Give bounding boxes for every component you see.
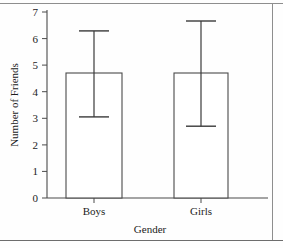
x-category-label-girls: Girls: [190, 205, 212, 217]
y-axis-title: Number of Friends: [8, 63, 20, 147]
y-tick-label-1: 1: [33, 165, 39, 177]
y-tick-label-3: 3: [33, 112, 39, 124]
bar-chart: 0 1 2 3 4 5 6 7 Number of Friends Boys G: [0, 0, 283, 248]
y-tick-label-2: 2: [33, 139, 39, 151]
x-category-label-boys: Boys: [83, 205, 106, 217]
y-tick-label-4: 4: [33, 86, 39, 98]
x-axis-title: Gender: [134, 223, 167, 235]
y-tick-label-6: 6: [33, 33, 39, 45]
figure-page: 0 1 2 3 4 5 6 7 Number of Friends Boys G: [0, 0, 283, 248]
y-tick-label-5: 5: [33, 59, 39, 71]
y-tick-label-7: 7: [33, 6, 39, 18]
y-tick-label-0: 0: [33, 192, 39, 204]
y-axis-ticks: [42, 12, 47, 198]
